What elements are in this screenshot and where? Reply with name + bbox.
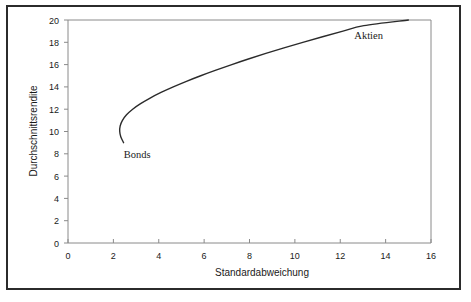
x-axis-tick-labels: 0246810121416: [65, 251, 436, 261]
y-tick-label: 4: [54, 194, 59, 204]
y-tick-label: 12: [49, 105, 59, 115]
y-tick-label: 6: [54, 172, 59, 182]
x-tick-label: 16: [426, 251, 436, 261]
y-axis-title: Durchschnittsrendite: [28, 85, 39, 177]
x-tick-label: 2: [111, 251, 116, 261]
y-tick-label: 0: [54, 239, 59, 249]
y-tick-label: 20: [49, 16, 59, 26]
x-tick-label: 12: [335, 251, 345, 261]
y-tick-label: 14: [49, 82, 59, 92]
x-tick-label: 0: [65, 251, 70, 261]
x-tick-label: 8: [247, 251, 252, 261]
y-tick-label: 10: [49, 127, 59, 137]
series-label-aktien: Aktien: [354, 30, 383, 41]
x-tick-label: 6: [202, 251, 207, 261]
efficient-frontier-chart: 0246810121416 02468101214161820 BondsAkt…: [0, 0, 471, 302]
x-tick-label: 4: [156, 251, 161, 261]
y-tick-label: 8: [54, 149, 59, 159]
series-label-bonds: Bonds: [124, 149, 151, 160]
x-tick-label: 10: [290, 251, 300, 261]
series-annotations: BondsAktien: [124, 30, 384, 160]
y-tick-label: 16: [49, 60, 59, 70]
y-tick-label: 18: [49, 38, 59, 48]
chart-axes: [68, 20, 431, 243]
y-tick-label: 2: [54, 216, 59, 226]
chart-figure: 0246810121416 02468101214161820 BondsAkt…: [0, 0, 471, 302]
y-axis-tick-labels: 02468101214161820: [49, 16, 59, 249]
x-tick-label: 14: [381, 251, 391, 261]
x-axis-title: Standardabweichung: [215, 267, 309, 278]
